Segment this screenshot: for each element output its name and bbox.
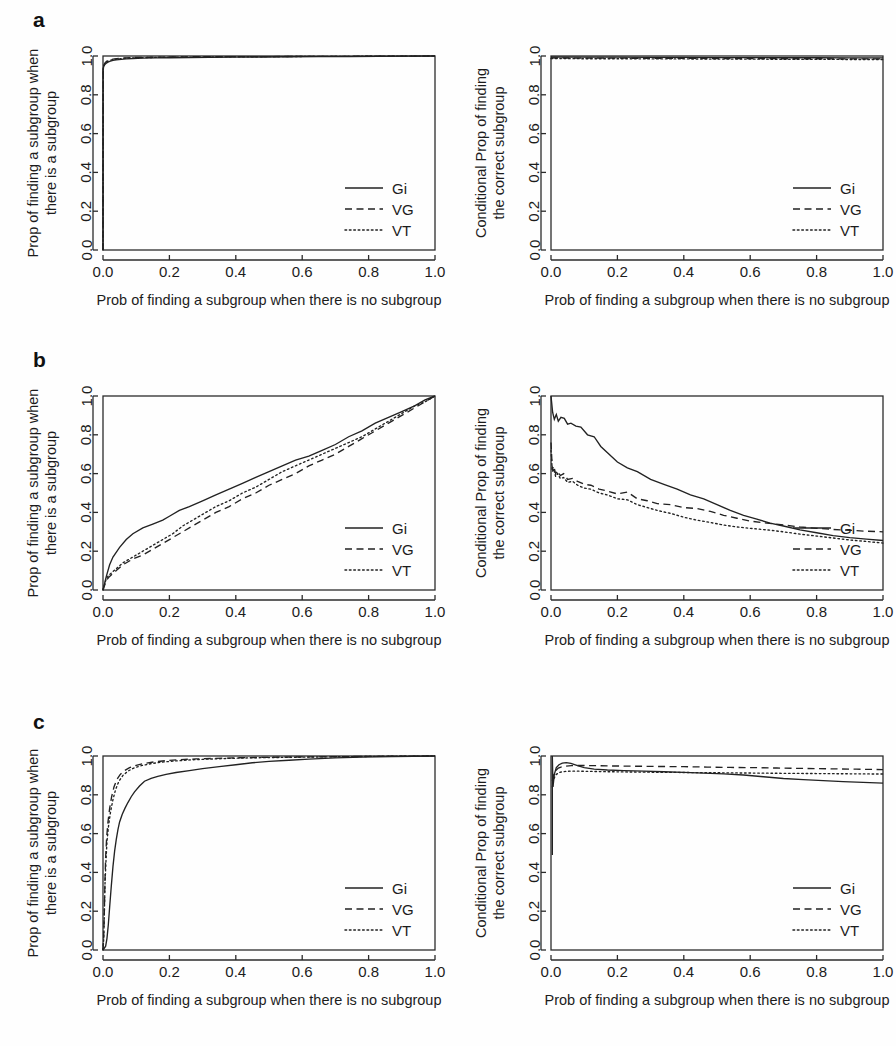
legend-label-vt: VT bbox=[392, 922, 411, 939]
legend-label-gi: Gi bbox=[392, 880, 407, 897]
x-tick-label: 0.6 bbox=[292, 263, 313, 280]
curve-vg bbox=[103, 756, 435, 950]
curve-vg bbox=[551, 443, 883, 532]
legend-label-vg: VG bbox=[392, 201, 414, 218]
figure-root: a 0.00.20.40.60.81.00.00.20.40.60.81.0Pr… bbox=[0, 0, 896, 1046]
y-axis-title-line1: Conditional Prop of finding bbox=[473, 768, 489, 938]
y-axis-title-line2: the correct subgroup bbox=[491, 787, 507, 920]
x-tick-label: 0.6 bbox=[740, 263, 761, 280]
y-axis-title-line1: Conditional Prop of finding bbox=[473, 408, 489, 578]
y-tick-label: 0.8 bbox=[78, 784, 95, 805]
y-tick-label: 0.2 bbox=[78, 541, 95, 562]
y-tick-label: 0.6 bbox=[78, 823, 95, 844]
y-tick-label: 0.6 bbox=[78, 463, 95, 484]
legend-label-gi: Gi bbox=[840, 520, 855, 537]
x-tick-label: 0.0 bbox=[93, 263, 114, 280]
y-tick-label: 1.0 bbox=[526, 46, 543, 67]
y-axis-title-line2: the correct subgroup bbox=[491, 427, 507, 560]
x-tick-label: 0.2 bbox=[159, 603, 180, 620]
x-tick-label: 0.6 bbox=[740, 603, 761, 620]
y-tick-label: 0.4 bbox=[526, 502, 543, 523]
x-axis-title: Prob of finding a subgroup when there is… bbox=[544, 292, 889, 308]
y-tick-label: 1.0 bbox=[78, 46, 95, 67]
plot-b-left: 0.00.20.40.60.81.00.00.20.40.60.81.0Prob… bbox=[0, 340, 448, 680]
chart-a-left-svg: 0.00.20.40.60.81.00.00.20.40.60.81.0Prob… bbox=[0, 0, 448, 340]
plot-b-right: 0.00.20.40.60.81.00.00.20.40.60.81.0Prob… bbox=[448, 340, 896, 680]
x-tick-label: 0.0 bbox=[541, 603, 562, 620]
y-tick-label: 0.0 bbox=[526, 240, 543, 261]
x-tick-label: 0.8 bbox=[358, 963, 379, 980]
legend-label-vg: VG bbox=[392, 541, 414, 558]
x-tick-label: 0.0 bbox=[541, 963, 562, 980]
y-tick-label: 0.4 bbox=[526, 862, 543, 883]
curve-gi bbox=[103, 396, 435, 590]
legend-label-vg: VG bbox=[840, 201, 862, 218]
y-tick-label: 0.2 bbox=[526, 201, 543, 222]
x-tick-label: 0.6 bbox=[292, 963, 313, 980]
chart-b-left-svg: 0.00.20.40.60.81.00.00.20.40.60.81.0Prob… bbox=[0, 340, 448, 680]
x-tick-label: 1.0 bbox=[425, 603, 446, 620]
y-tick-label: 0.2 bbox=[526, 541, 543, 562]
legend-label-gi: Gi bbox=[840, 880, 855, 897]
legend-label-vg: VG bbox=[840, 541, 862, 558]
chart-a-right-svg: 0.00.20.40.60.81.00.00.20.40.60.81.0Prob… bbox=[448, 0, 896, 340]
y-tick-label: 0.4 bbox=[78, 502, 95, 523]
y-tick-label: 0.6 bbox=[526, 123, 543, 144]
plot-c-left: 0.00.20.40.60.81.00.00.20.40.60.81.0Prob… bbox=[0, 680, 448, 1046]
y-tick-label: 0.0 bbox=[526, 580, 543, 601]
y-tick-label: 0.0 bbox=[78, 240, 95, 261]
y-tick-label: 0.2 bbox=[78, 201, 95, 222]
legend-label-vg: VG bbox=[840, 901, 862, 918]
x-tick-label: 0.8 bbox=[806, 263, 827, 280]
legend-label-vt: VT bbox=[392, 562, 411, 579]
x-tick-label: 0.6 bbox=[740, 963, 761, 980]
y-tick-label: 0.8 bbox=[526, 84, 543, 105]
plot-c-right: 0.00.20.40.60.81.00.00.20.40.60.81.0Prob… bbox=[448, 680, 896, 1046]
y-tick-label: 0.8 bbox=[78, 84, 95, 105]
y-tick-label: 0.8 bbox=[526, 424, 543, 445]
y-axis-title-line2: there is a subgroup bbox=[43, 91, 59, 215]
legend-label-gi: Gi bbox=[840, 180, 855, 197]
y-axis-title-line2: there is a subgroup bbox=[43, 791, 59, 915]
y-tick-label: 0.4 bbox=[78, 862, 95, 883]
y-tick-label: 0.4 bbox=[526, 162, 543, 183]
y-axis-title-line1: Prop of finding a subgroup when bbox=[25, 749, 41, 958]
y-tick-label: 0.6 bbox=[78, 123, 95, 144]
y-tick-label: 1.0 bbox=[78, 746, 95, 767]
y-tick-label: 0.2 bbox=[78, 901, 95, 922]
x-tick-label: 0.8 bbox=[806, 603, 827, 620]
x-tick-label: 0.0 bbox=[93, 603, 114, 620]
x-tick-label: 1.0 bbox=[425, 963, 446, 980]
x-tick-label: 0.4 bbox=[673, 963, 694, 980]
x-axis-title: Prob of finding a subgroup when there is… bbox=[96, 292, 441, 308]
y-axis-title-line1: Prop of finding a subgroup when bbox=[25, 389, 41, 598]
x-tick-label: 1.0 bbox=[873, 263, 894, 280]
y-tick-label: 0.4 bbox=[78, 162, 95, 183]
x-tick-label: 0.8 bbox=[806, 963, 827, 980]
legend-label-vg: VG bbox=[392, 901, 414, 918]
x-axis-title: Prob of finding a subgroup when there is… bbox=[96, 992, 441, 1008]
panel-c: c 0.00.20.40.60.81.00.00.20.40.60.81.0Pr… bbox=[0, 680, 896, 1046]
y-tick-label: 0.6 bbox=[526, 463, 543, 484]
x-tick-label: 1.0 bbox=[873, 603, 894, 620]
y-tick-label: 0.2 bbox=[526, 901, 543, 922]
curve-vt bbox=[103, 56, 435, 250]
x-tick-label: 0.6 bbox=[292, 603, 313, 620]
x-axis-title: Prob of finding a subgroup when there is… bbox=[96, 632, 441, 648]
x-tick-label: 0.0 bbox=[541, 263, 562, 280]
curve-gi bbox=[103, 756, 435, 950]
x-tick-label: 1.0 bbox=[425, 263, 446, 280]
x-tick-label: 0.4 bbox=[225, 603, 246, 620]
chart-b-right-svg: 0.00.20.40.60.81.00.00.20.40.60.81.0Prob… bbox=[448, 340, 896, 680]
curve-gi bbox=[552, 756, 883, 855]
x-tick-label: 0.8 bbox=[358, 603, 379, 620]
y-tick-label: 0.8 bbox=[526, 784, 543, 805]
x-tick-label: 0.2 bbox=[607, 963, 628, 980]
curve-gi bbox=[103, 56, 435, 250]
curve-gi bbox=[551, 396, 883, 541]
legend-label-vt: VT bbox=[840, 222, 859, 239]
y-tick-label: 0.8 bbox=[78, 424, 95, 445]
x-tick-label: 0.2 bbox=[607, 263, 628, 280]
x-tick-label: 0.2 bbox=[159, 963, 180, 980]
x-tick-label: 0.4 bbox=[673, 263, 694, 280]
